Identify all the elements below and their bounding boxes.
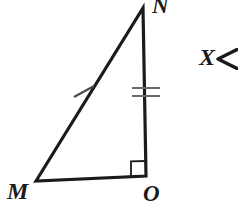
triangle-path-MNO xyxy=(36,8,146,181)
vertex-label-m: M xyxy=(7,179,28,203)
triangle-diagram xyxy=(0,0,238,213)
annotation-label-x: X xyxy=(199,45,215,69)
geometry-figure-canvas: N M O X xyxy=(0,0,238,213)
right-angle-marker-icon xyxy=(131,161,146,176)
left-arrowhead-icon xyxy=(216,48,238,70)
vertex-label-o: O xyxy=(143,182,160,205)
vertex-label-n: N xyxy=(152,0,169,17)
